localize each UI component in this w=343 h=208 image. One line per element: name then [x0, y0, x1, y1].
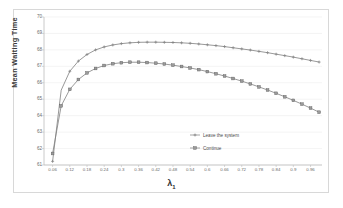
data-point [94, 67, 97, 70]
data-point [137, 61, 140, 64]
data-point [283, 54, 286, 57]
data-point [180, 41, 183, 44]
data-point [128, 41, 131, 44]
data-point [103, 64, 106, 67]
legend-label-1: Leave the system [203, 133, 239, 138]
data-point [257, 50, 260, 53]
data-point [309, 107, 312, 110]
data-point [94, 48, 97, 51]
data-point [266, 89, 269, 92]
data-point [189, 42, 192, 45]
series-line-2 [53, 62, 320, 153]
series-line-1 [53, 42, 320, 161]
data-point [180, 65, 183, 68]
data-point [111, 62, 114, 65]
data-point [223, 75, 226, 78]
data-point [146, 61, 149, 64]
data-point [172, 64, 175, 67]
data-point [215, 72, 218, 75]
data-point [154, 41, 157, 44]
data-point [258, 85, 261, 88]
data-point [223, 45, 226, 48]
data-point [137, 41, 140, 44]
data-point [206, 70, 209, 73]
data-point [154, 62, 157, 65]
data-point [120, 42, 123, 45]
data-point [283, 95, 286, 98]
data-point [249, 49, 252, 52]
data-point [266, 51, 269, 54]
data-point [240, 80, 243, 83]
legend: Leave the systemContinue [190, 133, 239, 151]
data-point [103, 45, 106, 48]
data-point [197, 68, 200, 71]
data-point [163, 63, 166, 66]
data-point [232, 77, 235, 80]
legend-label-2: Continue [203, 146, 222, 151]
data-point [197, 42, 200, 45]
data-point [300, 57, 303, 60]
data-point [214, 44, 217, 47]
legend-marker-plus-icon [194, 134, 197, 137]
data-point [86, 72, 89, 75]
data-point [129, 61, 132, 64]
data-point [309, 59, 312, 62]
data-point [51, 152, 54, 155]
data-point [120, 61, 123, 64]
data-point [232, 46, 235, 49]
data-point [77, 78, 80, 81]
x-axis-label: λ1 [0, 178, 343, 190]
data-point [163, 41, 166, 44]
data-point [301, 103, 304, 106]
data-point [292, 99, 295, 102]
data-point [318, 111, 321, 114]
plot-svg: Leave the systemContinue [0, 0, 343, 208]
data-point [51, 160, 54, 163]
legend-marker-square-icon [194, 147, 197, 150]
chart-container: Mean Waiting Time 61626364656667686970 0… [0, 0, 343, 208]
data-point [111, 43, 114, 46]
data-point [249, 83, 252, 86]
data-point [292, 56, 295, 59]
data-point [275, 92, 278, 95]
data-point [60, 104, 63, 107]
data-point [68, 88, 71, 91]
data-point [318, 61, 321, 64]
data-point [275, 53, 278, 56]
data-point [146, 41, 149, 44]
data-point [189, 67, 192, 70]
data-point [171, 41, 174, 44]
data-point [206, 43, 209, 46]
